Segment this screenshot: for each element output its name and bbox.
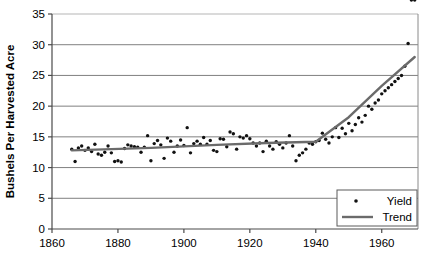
legend-label-yield: Yield [387,195,412,207]
data-point [96,152,99,155]
data-point [235,147,238,150]
data-point [373,101,376,104]
data-point [397,77,400,80]
data-point [344,132,347,135]
yield-trend-chart: 05101520253035186018801900192019401960Bu… [0,0,430,264]
data-point [337,136,340,139]
x-tick-label: 1960 [369,237,395,249]
data-point [245,134,248,137]
data-point [166,136,169,139]
data-point [172,151,175,154]
data-point [232,132,235,135]
data-point [380,92,383,95]
data-point [149,159,152,162]
data-point [242,136,245,139]
data-point [261,150,264,153]
data-point [106,144,109,147]
data-point [179,138,182,141]
data-point [228,130,231,133]
data-point [195,139,198,142]
data-point [116,159,119,162]
y-tick-label: 5 [39,192,45,204]
data-point [80,144,83,147]
y-axis-title: Bushels Per Harvested Acre [4,45,16,199]
data-point [367,104,370,107]
data-point [383,89,386,92]
y-tick-label: 15 [32,131,45,143]
data-point [215,150,218,153]
data-point [185,126,188,129]
y-axis-ticks: 05101520253035 [32,8,52,235]
data-point [189,151,192,154]
data-point [110,151,113,154]
data-point [377,98,380,101]
data-point [218,137,221,140]
data-point [298,154,301,157]
x-tick-label: 1900 [171,237,197,249]
data-point [321,131,324,134]
legend-label-trend: Trend [382,211,412,223]
data-point [360,120,363,123]
data-point [364,114,367,117]
data-point [271,147,274,150]
data-point [354,123,357,126]
data-point [248,137,251,140]
data-point [410,0,413,2]
data-point [113,160,116,163]
data-point [390,83,393,86]
data-point [327,141,330,144]
x-tick-label: 1860 [39,237,65,249]
data-point [126,143,129,146]
data-point [153,142,156,145]
data-point [324,138,327,141]
data-point [301,151,304,154]
data-point [129,144,132,147]
data-point [331,135,334,138]
y-tick-label: 0 [39,223,45,235]
data-point [347,122,350,125]
data-point [120,160,123,163]
data-point [294,159,297,162]
data-point [268,144,271,147]
data-point [400,74,403,77]
data-point [100,154,103,157]
data-point [406,42,409,45]
data-point [350,129,353,132]
data-point [393,80,396,83]
data-point [281,146,284,149]
y-tick-label: 10 [32,162,45,174]
data-point [340,127,343,130]
data-point [93,143,96,146]
y-tick-label: 30 [32,39,45,51]
data-point [212,149,215,152]
y-tick-label: 25 [32,69,45,81]
x-tick-label: 1920 [237,237,263,249]
data-point [288,134,291,137]
data-point [169,139,172,142]
data-point [291,144,294,147]
data-point [159,143,162,146]
legend: YieldTrend [337,190,417,226]
data-point [304,147,307,150]
x-axis-ticks: 186018801900192019401960 [39,229,394,249]
x-tick-label: 1940 [303,237,329,249]
data-point [209,139,212,142]
data-point [103,151,106,154]
chart-container: 05101520253035186018801900192019401960Bu… [0,0,430,264]
data-point [357,116,360,119]
data-point [146,134,149,137]
data-point [387,86,390,89]
data-point [139,151,142,154]
x-tick-label: 1880 [105,237,131,249]
y-tick-label: 20 [32,100,45,112]
y-tick-label: 35 [32,8,45,20]
legend-marker-yield [354,199,358,203]
data-point [162,157,165,160]
data-point [73,160,76,163]
data-point [222,138,225,141]
data-point [413,0,416,2]
data-point [370,108,373,111]
data-point [238,135,241,138]
data-point [156,139,159,142]
data-point [255,144,258,147]
